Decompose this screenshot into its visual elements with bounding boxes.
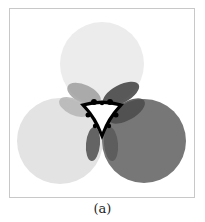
bead (86, 113, 91, 118)
venn-diagram (0, 0, 205, 222)
bead (100, 101, 104, 105)
bead (107, 124, 111, 128)
bead (107, 99, 113, 105)
figure-caption: (a) (0, 201, 205, 217)
bead (114, 113, 119, 118)
bead (91, 99, 97, 105)
bead (93, 124, 97, 128)
